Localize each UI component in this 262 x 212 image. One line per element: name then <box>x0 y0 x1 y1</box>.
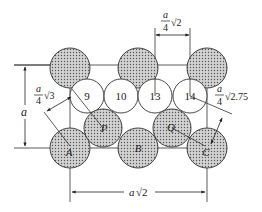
svg-text:a: a <box>217 83 222 94</box>
left-height-label: a <box>21 105 27 119</box>
svg-text:a: a <box>36 83 41 94</box>
atom-Q-label: Q <box>167 121 175 133</box>
site-9-label: 9 <box>84 90 90 102</box>
svg-text:4: 4 <box>36 95 41 106</box>
left-diag-label: a 4 √3 <box>34 83 55 106</box>
site-14-label: 14 <box>185 90 197 102</box>
svg-text:√2.75: √2.75 <box>225 91 248 102</box>
svg-text:4: 4 <box>163 22 168 33</box>
svg-text:4: 4 <box>217 96 222 107</box>
atom-P-label: P <box>100 122 108 134</box>
right-diag-label: a 4 √2.75 <box>215 83 248 107</box>
shaded-atoms <box>50 48 227 88</box>
site-13-label: 13 <box>150 90 162 102</box>
svg-text:a: a <box>163 9 168 20</box>
svg-text:√2: √2 <box>136 186 148 198</box>
atom-A-label: A <box>65 146 73 158</box>
svg-text:a: a <box>129 186 135 198</box>
lower-atoms <box>50 109 227 168</box>
atom-B-label: B <box>135 142 142 154</box>
svg-text:√2: √2 <box>171 17 182 28</box>
site-10-label: 10 <box>116 90 128 102</box>
lattice-diagram: a a 4 √3 a 4 √2 a 4 √2.75 a √2 9 10 13 1… <box>0 0 262 212</box>
bottom-width-label: a √2 <box>129 186 148 198</box>
svg-text:√3: √3 <box>44 90 55 101</box>
atom-C-label: C <box>202 146 210 158</box>
top-spacing-label: a 4 √2 <box>161 9 182 33</box>
